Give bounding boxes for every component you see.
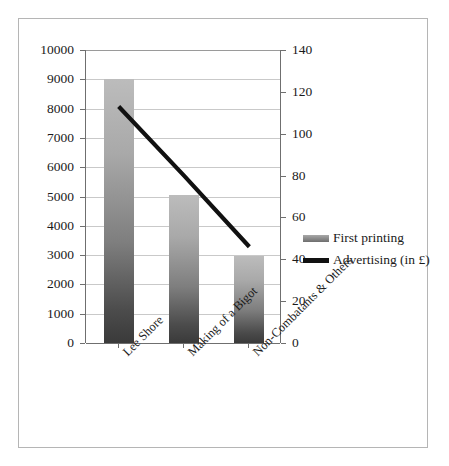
- left-axis-tick-label: 2000: [14, 277, 74, 291]
- legend-item-first-printing: First printing: [303, 227, 438, 249]
- legend-item-advertising: Advertising (in £): [303, 249, 438, 271]
- right-axis-tick-label: 0: [292, 336, 336, 350]
- right-axis-tick: [281, 176, 286, 177]
- left-axis-tick-label: 3000: [14, 248, 74, 262]
- right-axis-tick-label: 80: [292, 169, 336, 183]
- gridline: [86, 50, 280, 51]
- right-axis-tick: [281, 92, 286, 93]
- bar: [169, 195, 199, 343]
- left-axis-tick-label: 9000: [14, 72, 74, 86]
- left-axis-tick: [80, 343, 85, 344]
- bar-swatch-icon: [303, 235, 329, 242]
- left-axis-tick-label: 5000: [14, 190, 74, 204]
- right-axis-tick: [281, 301, 286, 302]
- right-axis-tick: [281, 343, 286, 344]
- chart-legend: First printing Advertising (in £): [303, 227, 438, 271]
- right-axis-tick: [281, 217, 286, 218]
- left-axis-tick-label: 1000: [14, 307, 74, 321]
- right-axis-tick-label: 60: [292, 210, 336, 224]
- category-axis-tick: [118, 343, 119, 348]
- left-axis-tick-label: 4000: [14, 219, 74, 233]
- right-axis-tick-label: 100: [292, 127, 336, 141]
- right-axis-tick: [281, 259, 286, 260]
- left-axis-tick-label: 10000: [14, 43, 74, 57]
- right-axis-tick-label: 140: [292, 43, 336, 57]
- left-axis-tick-label: 8000: [14, 102, 74, 116]
- right-axis-tick-label: 120: [292, 85, 336, 99]
- right-axis-tick: [281, 134, 286, 135]
- left-axis-tick-label: 0: [14, 336, 74, 350]
- category-axis-tick: [183, 343, 184, 348]
- bar: [104, 79, 134, 343]
- left-axis-tick-label: 7000: [14, 131, 74, 145]
- line-swatch-icon: [303, 258, 329, 263]
- legend-label-first-printing: First printing: [333, 231, 404, 245]
- category-axis-tick: [248, 343, 249, 348]
- right-axis-tick: [281, 50, 286, 51]
- chart-frame: 0100020003000400050006000700080009000100…: [18, 18, 428, 448]
- legend-label-advertising: Advertising (in £): [333, 253, 430, 267]
- left-axis-tick-label: 6000: [14, 160, 74, 174]
